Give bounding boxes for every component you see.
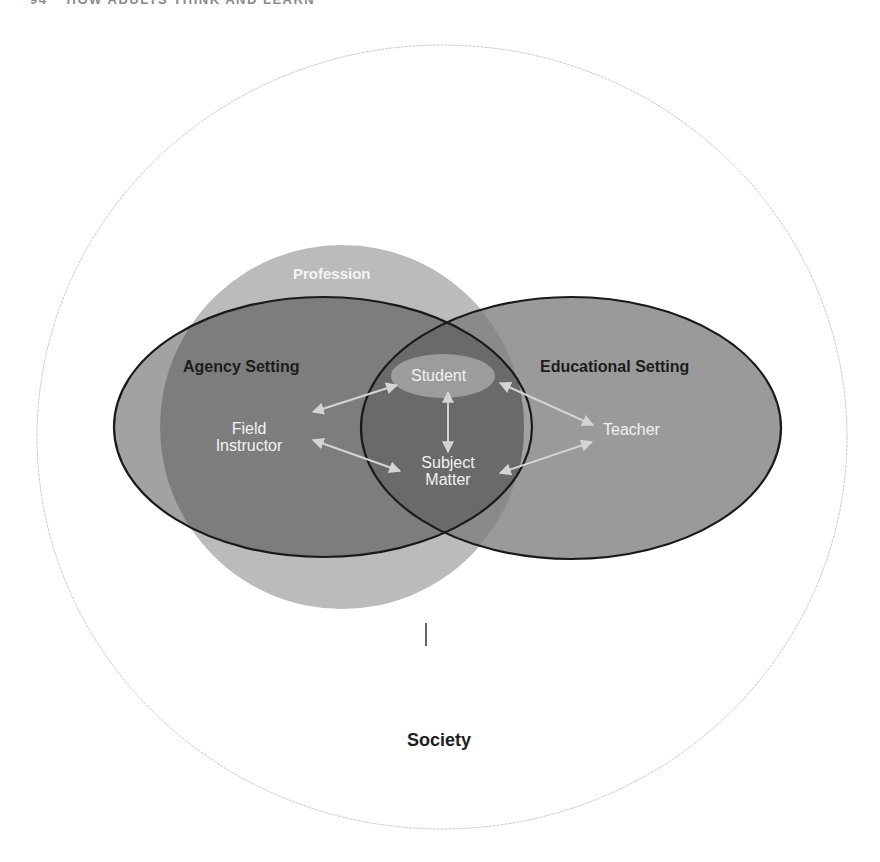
student-label: Student [411, 368, 466, 385]
profession-label: Profession [293, 266, 371, 282]
agency-setting-label: Agency Setting [183, 359, 299, 376]
field-instructor-line2: Instructor [209, 438, 289, 455]
field-instructor-label: Field Instructor [209, 421, 289, 455]
society-label: Society [407, 731, 471, 750]
subject-matter-label: Subject Matter [408, 455, 488, 489]
subject-matter-line2: Matter [408, 472, 488, 489]
subject-matter-line1: Subject [408, 455, 488, 472]
educational-setting-label: Educational Setting [540, 359, 689, 376]
teacher-label: Teacher [603, 422, 660, 439]
field-instructor-line1: Field [209, 421, 289, 438]
